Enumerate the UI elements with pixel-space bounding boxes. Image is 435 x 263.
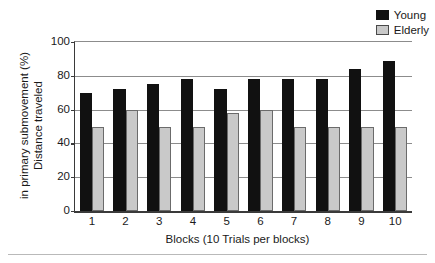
y-tick-mark-40	[71, 143, 75, 144]
bar-young-block-8	[316, 79, 328, 211]
legend-label-young: Young	[394, 9, 426, 21]
x-tick-label-4: 4	[190, 215, 196, 227]
y-tick-mark-60	[71, 110, 75, 111]
x-tick-label-6: 6	[257, 215, 263, 227]
y-axis-title: Distance traveled in primary submovement…	[14, 41, 48, 210]
y-tick-label-100: 100	[24, 36, 70, 48]
x-tick-label-10: 10	[389, 215, 402, 227]
bar-elderly-block-10	[395, 127, 407, 212]
x-tick-label-5: 5	[223, 215, 229, 227]
bar-elderly-block-8	[328, 127, 340, 212]
bar-young-block-3	[147, 84, 159, 211]
bar-young-block-2	[113, 89, 125, 211]
bar-young-block-9	[349, 69, 361, 211]
x-axis-line	[74, 211, 413, 213]
y-tick-label-40: 40	[24, 137, 70, 149]
legend-item-elderly: Elderly	[376, 23, 429, 36]
legend-swatch-young-icon	[376, 10, 389, 20]
x-tick-label-9: 9	[358, 215, 364, 227]
y-axis-title-line-1: Distance traveled	[31, 81, 45, 170]
bar-young-block-10	[383, 61, 395, 211]
legend-item-young: Young	[376, 8, 426, 21]
bar-chart-figure: Young Elderly Distance traveled in prima…	[0, 0, 435, 263]
legend-swatch-elderly-icon	[376, 25, 389, 35]
bar-young-block-4	[181, 79, 193, 211]
y-tick-mark-80	[71, 76, 75, 77]
legend-label-elderly: Elderly	[394, 24, 429, 36]
bottom-divider	[8, 254, 427, 255]
bar-elderly-block-1	[92, 127, 104, 212]
x-tick-label-7: 7	[291, 215, 297, 227]
x-tick-label-2: 2	[122, 215, 128, 227]
bar-elderly-block-4	[193, 127, 205, 212]
y-tick-mark-100	[71, 42, 75, 43]
x-tick-label-1: 1	[89, 215, 95, 227]
bar-elderly-block-5	[227, 113, 239, 211]
plot-area: 02040608010012345678910	[74, 41, 412, 211]
bar-elderly-block-7	[294, 127, 306, 212]
chart-legend: Young Elderly	[376, 8, 429, 36]
bar-elderly-block-3	[159, 127, 171, 212]
bar-elderly-block-2	[126, 110, 138, 211]
bar-elderly-block-6	[260, 110, 272, 211]
bar-elderly-block-9	[361, 127, 373, 212]
y-tick-mark-0	[71, 211, 75, 212]
bar-young-block-6	[248, 79, 260, 211]
plot-inner	[75, 42, 412, 211]
y-tick-label-60: 60	[24, 104, 70, 116]
x-tick-label-8: 8	[325, 215, 331, 227]
y-tick-label-0: 0	[24, 205, 70, 217]
y-tick-mark-20	[71, 177, 75, 178]
bar-young-block-1	[80, 93, 92, 211]
x-tick-label-3: 3	[156, 215, 162, 227]
y-tick-label-20: 20	[24, 171, 70, 183]
gridline-y-80	[75, 76, 412, 77]
x-axis-title: Blocks (10 Trials per blocks)	[60, 233, 415, 245]
y-tick-label-80: 80	[24, 70, 70, 82]
bar-young-block-5	[214, 89, 226, 211]
bar-young-block-7	[282, 79, 294, 211]
